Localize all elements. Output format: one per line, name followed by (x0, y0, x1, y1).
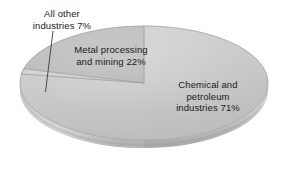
slice-label-metal-processing-mining: Metal processing and mining 22% (55, 44, 167, 67)
slice-label-line-1: All other (14, 8, 110, 20)
slice-label-line-1: Metal processing (55, 44, 167, 56)
slice-label-all-other-industries: All other industries 7% (14, 8, 110, 31)
slice-label-line-2: industries 7% (14, 20, 110, 32)
slice-label-line-2: and mining 22% (55, 56, 167, 68)
slice-label-chemical-petroleum: Chemical and petroleum industries 71% (158, 79, 258, 114)
slice-label-line-3: industries 71% (158, 102, 258, 114)
chart-canvas: All other industries 7% Metal processing… (0, 0, 284, 172)
slice-label-line-2: petroleum (158, 91, 258, 103)
slice-label-line-1: Chemical and (158, 79, 258, 91)
